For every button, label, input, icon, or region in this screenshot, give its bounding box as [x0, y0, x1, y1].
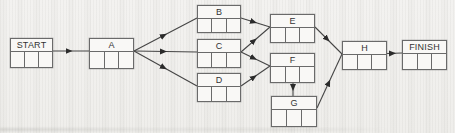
edge-h-finish: [387, 53, 402, 54]
node-c-cells: [198, 53, 240, 67]
node-cell: [285, 28, 300, 42]
node-f-label: F: [271, 54, 314, 67]
node-cell: [211, 19, 225, 32]
node-cell: [272, 110, 286, 126]
edge-b-e: [241, 18, 270, 27]
node-a-label: A: [90, 39, 133, 52]
node-cell: [271, 67, 285, 82]
node-g: G: [271, 96, 317, 127]
node-g-label: G: [272, 97, 316, 110]
node-b-cells: [198, 19, 240, 32]
node-cell: [357, 55, 372, 69]
node-h: H: [342, 41, 387, 70]
node-cell: [301, 110, 316, 126]
edge-a-b: [134, 18, 197, 51]
node-start-cells: [11, 52, 52, 67]
node-e: E: [270, 14, 315, 43]
node-cell: [38, 52, 52, 67]
node-finish-cells: [403, 54, 446, 69]
node-cell: [211, 87, 225, 101]
node-cell: [371, 55, 386, 69]
node-cell: [198, 87, 211, 101]
node-g-cells: [272, 110, 316, 126]
node-a-cells: [90, 52, 133, 68]
node-d-label: D: [198, 74, 240, 87]
edge-a-d: [134, 51, 197, 86]
node-cell: [198, 19, 211, 32]
edge-a-c: [134, 51, 197, 52]
edge-c-e: [241, 27, 270, 52]
node-a: A: [89, 38, 134, 69]
node-cell: [299, 28, 314, 42]
node-cell: [211, 53, 225, 67]
node-cell: [285, 67, 300, 82]
node-cell: [226, 53, 240, 67]
node-cell: [343, 55, 357, 69]
node-b-label: B: [198, 6, 240, 19]
node-cell: [299, 67, 314, 82]
scan-artifact: [0, 128, 390, 131]
node-cell: [271, 28, 285, 42]
edge-d-f: [241, 66, 270, 86]
node-f: F: [270, 53, 315, 83]
edge-e-h: [315, 27, 342, 54]
node-h-label: H: [343, 42, 386, 55]
node-start-label: START: [11, 39, 52, 52]
node-h-cells: [343, 55, 386, 69]
network-diagram: START A B C D: [0, 0, 455, 133]
node-d: D: [197, 73, 241, 102]
node-d-cells: [198, 87, 240, 101]
node-cell: [11, 52, 24, 67]
node-e-label: E: [271, 15, 314, 28]
node-finish: FINISH: [402, 40, 447, 70]
node-cell: [226, 19, 240, 32]
node-cell: [286, 110, 301, 126]
node-cell: [403, 54, 417, 69]
node-f-cells: [271, 67, 314, 82]
edge-g-h: [317, 54, 342, 108]
node-cell: [431, 54, 446, 69]
node-start: START: [10, 38, 53, 68]
edge-c-f: [241, 52, 270, 66]
node-c: C: [197, 39, 241, 68]
node-finish-label: FINISH: [403, 41, 446, 54]
node-b: B: [197, 5, 241, 33]
node-cell: [24, 52, 38, 67]
node-e-cells: [271, 28, 314, 42]
node-cell: [118, 52, 133, 68]
node-cell: [90, 52, 104, 68]
node-c-label: C: [198, 40, 240, 53]
node-cell: [198, 53, 211, 67]
node-cell: [417, 54, 432, 69]
node-cell: [104, 52, 119, 68]
node-cell: [226, 87, 240, 101]
